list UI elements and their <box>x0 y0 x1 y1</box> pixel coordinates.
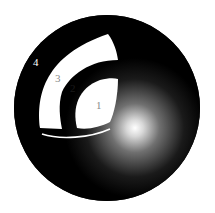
label-1: 1 <box>96 100 102 111</box>
label-2: 2 <box>70 83 76 94</box>
label-3: 3 <box>55 73 61 84</box>
label-4: 4 <box>33 57 39 68</box>
sphere-diagram <box>0 0 215 213</box>
